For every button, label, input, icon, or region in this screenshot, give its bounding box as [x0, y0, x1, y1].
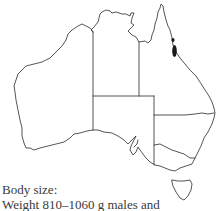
border-nsw-vic: [154, 144, 195, 158]
distribution-patches: [171, 38, 176, 57]
border-qld-nsw: [154, 113, 214, 115]
mainland-coastline: [14, 4, 215, 171]
caption: Body size: Weight 810–1060 g males and: [2, 182, 160, 211]
caption-heading: Body size:: [2, 182, 160, 197]
australia-distribution-map: [0, 0, 217, 211]
range-patch-main: [172, 45, 177, 57]
tasmania-coastline: [172, 180, 192, 200]
caption-weight: Weight 810–1060 g males and: [2, 197, 160, 211]
gulf-detail: [134, 140, 138, 147]
range-patch-north: [171, 38, 174, 42]
